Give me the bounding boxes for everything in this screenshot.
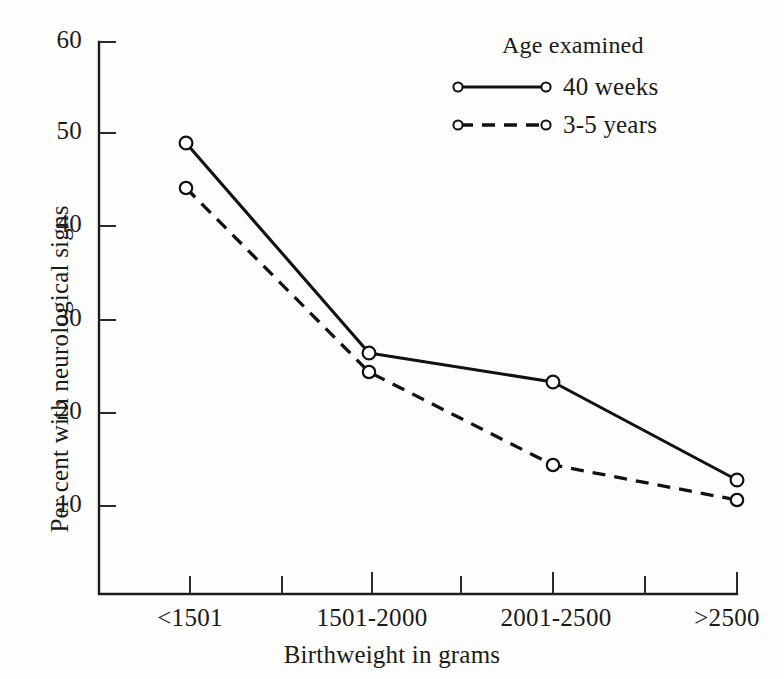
legend-item-40-weeks: 40 weeks [452, 70, 742, 104]
y-tick-label-50: 50 [22, 117, 82, 145]
data-point [547, 376, 560, 389]
legend-title: Age examined [502, 32, 742, 59]
x-tick-label-2001-2500: 2001-2500 [500, 604, 611, 632]
data-point [731, 474, 744, 487]
data-point [547, 459, 559, 471]
data-point [180, 182, 192, 194]
data-point [363, 347, 376, 360]
chart-figure: 60 50 40 30 20 10 <1501 1501-2000 2001-2… [0, 0, 784, 679]
y-tick-marks [99, 42, 116, 506]
x-tick-marks [190, 572, 737, 594]
data-point [363, 366, 375, 378]
legend-item-3-5-years: 3-5 years [452, 108, 742, 142]
y-axis-title: Per cent with neurological signs [46, 159, 74, 579]
chart-legend: Age examined 40 weeks 3-5 years [452, 32, 742, 146]
x-tick-label-over-2500: >2500 [694, 604, 760, 632]
legend-label-40-weeks: 40 weeks [563, 73, 658, 101]
data-point [731, 494, 743, 506]
legend-swatch-dashed-line [452, 115, 552, 135]
y-tick-label-60: 60 [22, 26, 82, 54]
data-point [180, 137, 193, 150]
x-tick-label-under-1501: <1501 [157, 604, 223, 632]
x-tick-label-1501-2000: 1501-2000 [316, 604, 427, 632]
legend-swatch-solid-line [452, 77, 552, 97]
x-axis-title: Birthweight in grams [0, 641, 784, 669]
series-3-5-years [180, 182, 743, 506]
legend-label-3-5-years: 3-5 years [563, 111, 657, 139]
series-40-weeks [180, 137, 744, 487]
